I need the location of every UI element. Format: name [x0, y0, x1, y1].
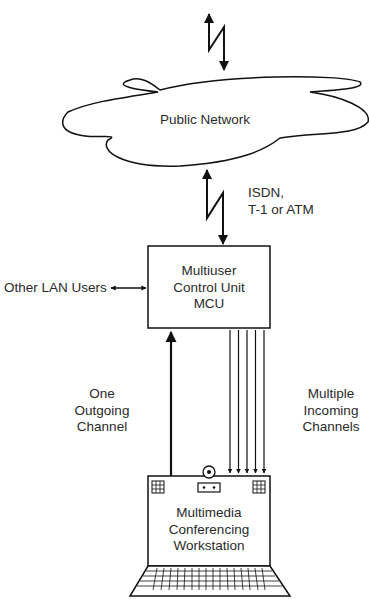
other-lan-users-label: Other LAN Users — [4, 280, 107, 297]
speaker-icon — [198, 483, 220, 492]
grid-icon-right — [253, 481, 265, 493]
grid-icon-left — [152, 481, 164, 493]
mcu-label: Multiuser Control Unit MCU — [148, 263, 270, 313]
outgoing-channel-label: One Outgoing Channel — [70, 386, 134, 436]
top-lightning-link — [209, 14, 224, 70]
wan-link-label: ISDN, T-1 or ATM — [248, 185, 314, 218]
incoming-channel-arrows — [230, 330, 264, 473]
incoming-channels-label: Multiple Incoming Channels — [297, 386, 365, 436]
workstation-label: Multimedia Conferencing Workstation — [148, 505, 270, 555]
public-network-label: Public Network — [160, 112, 250, 129]
wan-lightning-link — [207, 170, 223, 244]
